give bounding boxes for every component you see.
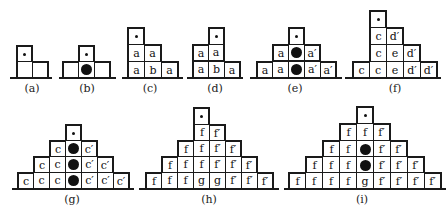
letter-cell: c bbox=[49, 140, 66, 157]
letter-cell: c′ bbox=[81, 156, 98, 173]
figure-label: (h) bbox=[201, 193, 217, 206]
letter-cell: a bbox=[272, 44, 289, 61]
marker-cell bbox=[127, 27, 145, 45]
marker-cell bbox=[65, 124, 82, 141]
letter-cell: c bbox=[369, 44, 387, 62]
letter-cell: b bbox=[208, 61, 225, 78]
marker-cell bbox=[356, 106, 374, 124]
letter-cell: f bbox=[339, 123, 357, 141]
filled-disc-icon bbox=[68, 143, 79, 154]
letter-cell: c′ bbox=[81, 172, 98, 189]
empty-cell bbox=[94, 61, 111, 78]
letter-cell: f′ bbox=[225, 140, 242, 157]
small-dot-icon bbox=[23, 53, 26, 56]
figure-label: (i) bbox=[356, 193, 368, 206]
empty-cell bbox=[62, 61, 79, 78]
letter-cell: c′ bbox=[81, 140, 98, 157]
letter-cell: c′ bbox=[113, 172, 130, 189]
letter-cell: a′ bbox=[304, 61, 321, 78]
filled-cell bbox=[288, 61, 305, 78]
letter-cell: c bbox=[369, 27, 387, 45]
letter-cell: f bbox=[145, 172, 162, 189]
letter-cell: f′ bbox=[209, 140, 226, 157]
baseline bbox=[250, 77, 342, 79]
figure-label: (d) bbox=[207, 82, 223, 95]
letter-cell: c bbox=[33, 156, 50, 173]
letter-cell: f bbox=[193, 156, 210, 173]
letter-cell: c′ bbox=[97, 156, 114, 173]
small-dot-icon bbox=[295, 35, 298, 38]
filled-cell bbox=[78, 61, 95, 78]
small-dot-icon bbox=[215, 35, 218, 38]
letter-cell: f′ bbox=[373, 123, 391, 141]
letter-cell: a bbox=[272, 61, 289, 78]
baseline bbox=[187, 77, 243, 79]
letter-cell: a bbox=[224, 61, 241, 78]
filled-disc-icon bbox=[360, 160, 371, 171]
baseline bbox=[139, 188, 279, 190]
filled-disc-icon bbox=[81, 64, 92, 75]
baseline bbox=[345, 77, 441, 79]
figure-label: (a) bbox=[24, 82, 39, 95]
baseline bbox=[12, 188, 134, 190]
figure-label: (g) bbox=[64, 193, 80, 206]
filled-disc-icon bbox=[68, 175, 79, 186]
figure-label: (e) bbox=[287, 82, 302, 95]
filled-cell bbox=[65, 172, 82, 189]
filled-disc-icon bbox=[291, 64, 302, 75]
letter-cell: f bbox=[356, 123, 374, 141]
letter-cell: f bbox=[177, 156, 194, 173]
empty-cell bbox=[16, 61, 33, 78]
letter-cell: a′ bbox=[304, 44, 321, 61]
filled-disc-icon bbox=[360, 144, 371, 155]
small-dot-icon bbox=[377, 18, 380, 21]
letter-cell: c bbox=[33, 172, 50, 189]
filled-disc-icon bbox=[291, 47, 302, 58]
letter-cell: f′ bbox=[241, 172, 258, 189]
letter-cell: f′ bbox=[209, 124, 226, 141]
letter-cell: a bbox=[144, 44, 162, 62]
letter-cell: f′ bbox=[225, 156, 242, 173]
small-dot-icon bbox=[72, 132, 75, 135]
letter-cell: c bbox=[49, 156, 66, 173]
letter-cell: f′ bbox=[209, 156, 226, 173]
small-dot-icon bbox=[200, 115, 203, 118]
figure-label: (b) bbox=[79, 82, 95, 95]
small-dot-icon bbox=[85, 53, 88, 56]
marker-cell bbox=[16, 45, 33, 62]
marker-cell bbox=[288, 27, 305, 45]
filled-cell bbox=[65, 140, 82, 157]
filled-disc-icon bbox=[68, 159, 79, 170]
letter-cell: f bbox=[177, 140, 194, 157]
letter-cell: f′ bbox=[257, 172, 274, 189]
letter-cell: g bbox=[193, 172, 210, 189]
baseline bbox=[122, 77, 183, 79]
baseline bbox=[284, 188, 446, 190]
marker-cell bbox=[208, 27, 225, 45]
letter-cell: f′ bbox=[241, 156, 258, 173]
letter-cell: a bbox=[127, 44, 145, 62]
letter-cell: c′ bbox=[97, 172, 114, 189]
filled-cell bbox=[288, 44, 305, 61]
small-dot-icon bbox=[135, 35, 138, 38]
letter-cell: d′ bbox=[403, 44, 421, 62]
letter-cell: f bbox=[193, 124, 210, 141]
baseline bbox=[59, 77, 116, 79]
letter-cell: d′ bbox=[386, 27, 404, 45]
figure-label: (f) bbox=[389, 82, 402, 95]
marker-cell bbox=[369, 10, 387, 28]
letter-cell: f bbox=[193, 140, 210, 157]
filled-cell bbox=[65, 156, 82, 173]
small-dot-icon bbox=[364, 114, 367, 117]
letter-cell: e bbox=[386, 44, 404, 62]
marker-cell bbox=[193, 107, 210, 125]
letter-cell: f bbox=[161, 172, 178, 189]
baseline bbox=[10, 77, 52, 79]
letter-cell: a bbox=[256, 61, 273, 78]
letter-cell: f bbox=[161, 156, 178, 173]
letter-cell: f bbox=[177, 172, 194, 189]
letter-cell: c bbox=[49, 172, 66, 189]
empty-cell bbox=[32, 61, 49, 78]
figure-label: (c) bbox=[143, 82, 158, 95]
letter-cell: a bbox=[208, 44, 225, 61]
